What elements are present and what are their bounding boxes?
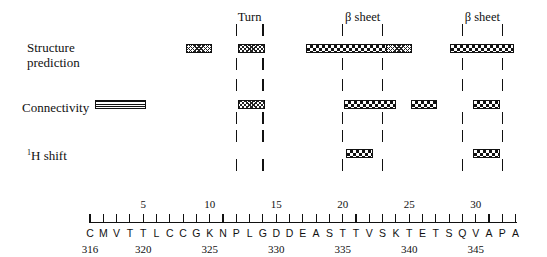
region-boundary-dash [382,79,383,91]
hshift-bar [473,149,500,158]
axis-tick [236,214,237,223]
residue-letter: A [512,227,519,239]
structure-bar [186,44,212,53]
residue-letter: S [326,227,333,239]
connectivity-bar [344,100,396,109]
region-boundary-dash [342,130,343,142]
residue-letter: V [366,227,373,239]
axis-tick [196,214,197,223]
residue-letter: K [206,227,213,239]
hshift-label: 1H shift [27,145,67,163]
residue-letter: D [272,227,280,239]
residue-letter: S [379,227,386,239]
axis-tick [395,214,396,223]
region-label: β sheet [465,10,500,25]
region-boundary-dash [342,79,343,91]
axis-tick [289,214,290,223]
residue-index-label: 25 [404,198,415,210]
axis-tick [329,214,330,223]
region-boundary-dash [462,159,463,171]
sequence-number-label: 325 [201,243,218,255]
axis-tick [89,214,90,223]
region-boundary-dash [236,58,237,70]
residue-letter: A [313,227,320,239]
axis-tick [276,214,277,223]
structure-bar [306,44,387,53]
residue-letter: G [192,227,200,239]
region-boundary-dash [462,112,463,124]
axis-tick [209,214,210,223]
sequence-number-label: 340 [401,243,418,255]
residue-letter: E [299,227,306,239]
sequence-number-label: 335 [334,243,351,255]
residue-letter: T [353,227,359,239]
residue-index-label: 15 [271,198,282,210]
region-boundary-dash [502,24,503,36]
residue-letter: C [86,227,94,239]
axis-tick [435,214,436,223]
axis-tick [422,214,423,223]
region-boundary-dash [236,112,237,124]
axis-tick [342,214,343,223]
connectivity-bar [95,100,146,109]
axis-tick [143,214,144,223]
residue-index-label: 30 [470,198,481,210]
region-boundary-dash [502,112,503,124]
structure-label: Structureprediction [27,40,80,70]
sequence-number-label: 316 [82,243,99,255]
axis-tick [129,214,130,223]
region-boundary-dash [236,159,237,171]
region-boundary-dash [502,159,503,171]
structure-bar [450,44,514,53]
residue-letter: T [433,227,439,239]
residue-letter: G [259,227,267,239]
residue-letter: Q [458,227,466,239]
region-boundary-dash [236,79,237,91]
axis-tick [475,214,476,223]
residue-letter: L [154,227,160,239]
axis-tick [169,214,170,223]
connectivity-bar [411,100,437,109]
axis-tick [449,214,450,223]
region-boundary-dash [462,130,463,142]
region-boundary-dash [462,24,463,36]
sequence-number-label: 330 [268,243,285,255]
region-boundary-dash [462,58,463,70]
region-boundary-dash [502,130,503,142]
residue-letter: P [499,227,506,239]
region-boundary-dash [342,58,343,70]
region-boundary-dash [262,159,263,171]
region-boundary-dash [502,58,503,70]
region-label: β sheet [345,10,380,25]
region-boundary-dash [262,79,263,91]
axis-tick [502,214,503,223]
region-label: Turn [238,10,262,25]
residue-letter: V [472,227,479,239]
region-boundary-dash [236,24,237,36]
axis-tick [249,214,250,223]
secondary-structure-diagram: StructurepredictionConnectivity1H shiftT… [0,0,547,257]
residue-letter: T [127,227,133,239]
axis-tick [409,214,410,223]
residue-letter: T [406,227,412,239]
sequence-number-label: 320 [135,243,152,255]
axis-tick [462,214,463,223]
region-boundary-dash [262,58,263,70]
axis-tick [103,214,104,223]
region-boundary-dash [262,24,263,36]
region-boundary-dash [342,24,343,36]
residue-letter: E [419,227,426,239]
region-boundary-dash [342,112,343,124]
residue-letter: N [219,227,227,239]
axis-tick [355,214,356,223]
residue-letter: K [392,227,399,239]
axis-tick [302,214,303,223]
region-boundary-dash [236,130,237,142]
residue-letter: C [179,227,187,239]
region-boundary-dash [262,130,263,142]
hshift-bar [346,149,373,158]
axis-tick [116,214,117,223]
residue-letter: P [233,227,240,239]
residue-letter: S [446,227,453,239]
axis-tick [515,214,516,223]
